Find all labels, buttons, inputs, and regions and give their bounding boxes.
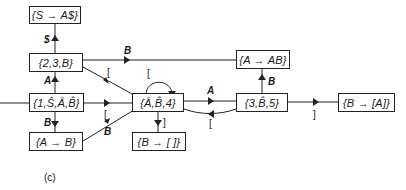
edge-label-close-bracket-down: ] bbox=[163, 118, 166, 128]
edge-label-b-top: B bbox=[124, 46, 131, 56]
node-a-to-ab: {A → AB} bbox=[236, 50, 290, 69]
node-s-to-a-dollar: {S → A$} bbox=[29, 6, 81, 24]
edge-label-bracket-diag: [ bbox=[107, 68, 110, 78]
node-b-to-bracket-a: {B → [A]} bbox=[338, 93, 395, 112]
edge-label-a-up: A bbox=[44, 76, 51, 86]
node-a-b-4: {Â,B̂,4} bbox=[132, 93, 184, 112]
edge-label-b-up-right: B bbox=[268, 77, 275, 87]
edge-label-b-diag: B bbox=[104, 127, 111, 137]
edge-label-b-down: B bbox=[44, 118, 51, 128]
figure-caption: (c) bbox=[44, 172, 56, 183]
node-b-to-empty-brackets: {B → [ ]} bbox=[132, 132, 186, 151]
node-start-1-s-a-b: {1,Ŝ,Â,B̂} bbox=[29, 93, 84, 112]
edge-label-bracket-start: [ bbox=[104, 110, 107, 120]
node-2-3-b: {2,3,B} bbox=[29, 53, 83, 72]
edge-label-a-right: A bbox=[207, 86, 214, 96]
node-3-b-5: {3,B̂,5} bbox=[236, 93, 288, 112]
edge-label-bracket-back: [ bbox=[209, 119, 212, 129]
edge-label-dollar: $ bbox=[44, 35, 50, 45]
node-a-to-b: {A → B} bbox=[29, 132, 83, 151]
edge-label-bracket-loop: [ bbox=[147, 69, 150, 79]
edge-label-close-bracket-right: ] bbox=[313, 110, 316, 120]
